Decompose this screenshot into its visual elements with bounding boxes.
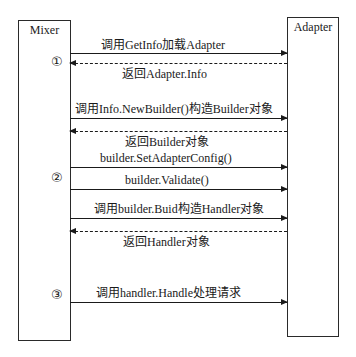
- mixer-title: Mixer: [19, 23, 70, 38]
- arrowhead-right-icon: [281, 299, 288, 305]
- step-marker-3: ③: [51, 288, 63, 302]
- solid-line: [70, 53, 287, 54]
- step-marker-1: ①: [51, 55, 63, 69]
- mixer-participant: Mixer: [18, 20, 71, 341]
- dashed-line: [70, 131, 287, 132]
- message-label-2: 返回Adapter.Info: [122, 67, 207, 81]
- adapter-participant: Adapter: [287, 17, 339, 337]
- message-label-4: 返回Builder对象: [125, 135, 209, 149]
- arrowhead-left-icon: [69, 128, 76, 134]
- message-label-3: 调用Info.NewBuilder()构造Builder对象: [75, 102, 273, 116]
- solid-line: [70, 167, 287, 168]
- solid-line: [70, 302, 287, 303]
- message-label-1: 调用GetInfo加载Adapter: [101, 38, 225, 52]
- message-label-6: builder.Validate(): [125, 173, 209, 187]
- solid-line: [70, 218, 287, 219]
- arrowhead-right-icon: [281, 215, 288, 221]
- solid-line: [70, 118, 287, 119]
- message-label-7: 调用builder.Buid构造Handler对象: [94, 202, 264, 216]
- arrowhead-right-icon: [281, 186, 288, 192]
- adapter-title: Adapter: [288, 20, 338, 35]
- arrowhead-left-icon: [69, 228, 76, 234]
- arrowhead-left-icon: [69, 60, 76, 66]
- dashed-line: [70, 231, 287, 232]
- step-marker-2: ②: [51, 171, 63, 185]
- message-label-5: builder.SetAdapterConfig(): [100, 151, 232, 165]
- dashed-line: [70, 63, 287, 64]
- solid-line: [70, 189, 287, 190]
- arrowhead-right-icon: [281, 164, 288, 170]
- arrowhead-right-icon: [281, 115, 288, 121]
- arrowhead-right-icon: [281, 50, 288, 56]
- message-label-9: 调用handler.Handle处理请求: [96, 286, 241, 300]
- message-label-8: 返回Handler对象: [123, 235, 210, 249]
